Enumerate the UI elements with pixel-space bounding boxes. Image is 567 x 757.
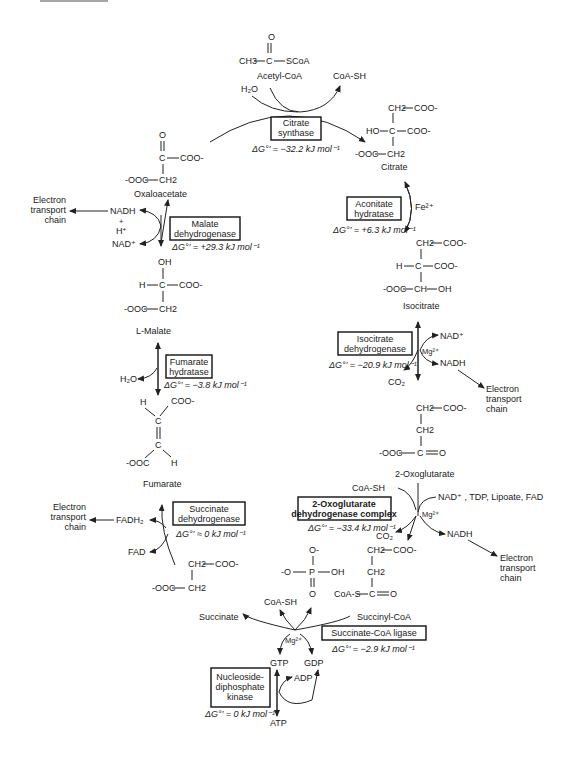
svg-text:H: H [139,280,146,290]
svg-text:C: C [155,440,162,450]
svg-text:O: O [439,448,446,458]
svg-text:dehydrogenase complex: dehydrogenase complex [291,509,397,519]
svg-text:COO-: COO- [443,238,467,248]
enzyme-aconitate-hydratase: Aconitate hydratase ΔG°′ = +6.3 kJ mol⁻¹ [332,197,416,235]
svg-text:C: C [389,126,396,136]
succinate-structure: CH2 COO- -OOC CH2 [152,559,239,593]
svg-text:C: C [159,280,166,290]
svg-text:chain: chain [64,522,86,532]
isocitrate-structure: CH2 COO- H C COO- -OOC CH OH Isocitrate [383,238,467,311]
svg-text:ΔG°′ = 0 kJ mol⁻¹: ΔG°′ = 0 kJ mol⁻¹ [204,709,275,719]
nad-label: NAD⁺ [440,331,464,341]
svg-text:OH: OH [331,567,345,577]
svg-text:ΔG°′ = −20.9 kJ mol⁻¹: ΔG°′ = −20.9 kJ mol⁻¹ [328,360,417,370]
svg-text:CH2: CH2 [387,149,405,159]
svg-text:C: C [159,153,166,163]
svg-text:COO-: COO- [407,126,431,136]
atp-label: ATP [270,718,287,728]
gtp-label: GTP [270,658,289,668]
malate-structure: OH H C COO- -OOC CH2 L-Malate [124,257,203,336]
svg-text:Electron: Electron [500,553,533,563]
enzyme-malate-dehydrogenase: Malate dehydrogenase ΔG°′ = +29.3 kJ mol… [170,217,260,252]
coash-label: CoA-SH [333,71,366,81]
svg-text:COO-: COO- [434,261,458,271]
svg-text:COO-: COO- [180,153,204,163]
nadh-label-2: NADH [447,529,473,539]
nadh-label-3: NADH [110,206,136,216]
svg-text:Mg²⁺: Mg²⁺ [422,510,439,519]
svg-text:COO-: COO- [414,103,438,113]
svg-text:H: H [396,261,403,271]
coash-label-2: CoA-SH [352,483,385,493]
succinyl-coa-label: Succinyl-CoA [357,612,411,622]
svg-text:COO-: COO- [393,545,417,555]
svg-text:ΔG°′ = −3.8 kJ mol⁻¹: ΔG°′ = −3.8 kJ mol⁻¹ [163,380,247,390]
fad-label: FAD [128,547,146,557]
oxaloacetate-structure: O C COO- -OOC CH2 Oxaloacetate [125,130,204,199]
svg-text:Isocitrate: Isocitrate [357,334,394,344]
succinyl-coa-structure: CH2 COO- CH2 CoA-S C O Succinyl-CoA [334,545,417,622]
svg-text:2-Oxoglutarate: 2-Oxoglutarate [312,499,376,509]
svg-text:CoA-S: CoA-S [334,589,361,599]
svg-text:HO: HO [366,126,380,136]
svg-text:OH: OH [438,284,452,294]
svg-text:P: P [309,567,315,577]
nadh-label: NADH [440,358,466,368]
svg-text:Citrate: Citrate [283,118,310,128]
svg-text:H: H [140,397,147,407]
svg-text:CH2: CH2 [159,304,177,314]
co2-label: CO₂ [388,377,406,387]
enzyme-succinate-dehydrogenase: Succinate dehydrogenase ΔG°′ ≈ 0 kJ mol⁻… [173,502,246,539]
svg-text:O: O [309,589,316,599]
malate-label: L-Malate [136,326,171,336]
svg-text:O: O [390,589,397,599]
oxoglutarate-label: 2-Oxoglutarate [395,469,455,479]
isocitrate-label: Isocitrate [403,301,440,311]
svg-text:ΔG°′ ≈ 0 kJ mol⁻¹: ΔG°′ ≈ 0 kJ mol⁻¹ [175,529,246,539]
svg-text:Mg²⁺: Mg²⁺ [285,636,302,645]
svg-text:transport: transport [486,394,522,404]
svg-text:chain: chain [486,404,508,414]
svg-text:OH: OH [158,257,172,267]
svg-text:C: C [417,448,424,458]
svg-text:C: C [266,56,273,66]
enzyme-fumarate-hydratase: Fumarate hydratase ΔG°′ = −3.8 kJ mol⁻¹ [163,355,247,390]
svg-text:ΔG°′ = −2.9 kJ mol⁻¹: ΔG°′ = −2.9 kJ mol⁻¹ [331,644,415,654]
svg-text:kinase: kinase [227,692,253,702]
nad-label-3: NAD⁺ [112,239,136,249]
etc-label-4: Electron transport chain [30,195,66,225]
svg-text:Nucleoside-: Nucleoside- [216,672,264,682]
svg-text:transport: transport [500,563,536,573]
svg-text:Electron: Electron [53,502,86,512]
oxoglutarate-structure: CH2 COO- CH2 -OOC C O 2-Oxoglutarate [379,403,467,479]
svg-text:Succinate: Succinate [189,504,229,514]
svg-text:+: + [119,217,124,226]
svg-text:CH2: CH2 [188,583,206,593]
svg-text:H: H [171,458,178,468]
fadh2-label: FADH₂ [116,515,144,525]
acetyl-coa-structure: O CH3 C SCoA Acetyl-CoA [239,32,310,81]
svg-text:O: O [159,130,166,140]
svg-text:hydratase: hydratase [354,209,394,219]
svg-text:COO-: COO- [215,559,239,569]
h-plus-label: H⁺ [116,226,128,236]
enzyme-ndp-kinase: Nucleoside- diphosphate kinase ΔG°′ = 0 … [204,668,275,719]
nad-cofactors-label: NAD⁺ , TDP, Lipoate, FAD [438,492,544,502]
svg-text:-O: -O [281,567,291,577]
svg-text:Fe²⁺: Fe²⁺ [415,202,434,212]
svg-text:dehydrogenase: dehydrogenase [178,514,240,524]
svg-text:ΔG°′ = +6.3 kJ mol⁻¹: ΔG°′ = +6.3 kJ mol⁻¹ [332,225,416,235]
etc-label-3: Electron transport chain [50,502,86,532]
svg-text:Aconitate: Aconitate [355,199,393,209]
svg-text:Mg²⁺: Mg²⁺ [422,347,439,356]
svg-text:COO-: COO- [179,280,203,290]
svg-text:ΔG°′ = −32.2 kJ mol⁻¹: ΔG°′ = −32.2 kJ mol⁻¹ [251,144,340,154]
svg-text:Electron: Electron [486,384,519,394]
svg-text:transport: transport [30,205,66,215]
enzyme-oxoglutarate-dehydrogenase-complex: 2-Oxoglutarate dehydrogenase complex ΔG°… [291,497,397,533]
oxaloacetate-label: Oxaloacetate [134,189,187,199]
adp-label: ADP [294,673,313,683]
fumarate-structure: H COO- C C -OOC H [126,396,195,468]
svg-text:synthase: synthase [278,128,314,138]
enzyme-succinate-coa-ligase: Succinate-CoA ligase ΔG°′ = −2.9 kJ mol⁻… [322,626,426,654]
